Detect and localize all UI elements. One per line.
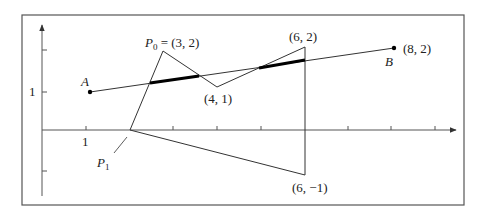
clipped-segment-1	[150, 76, 199, 83]
label-a: A	[80, 74, 89, 89]
label-b: B	[385, 54, 393, 69]
x-ticks	[86, 126, 435, 130]
clip-polygon	[130, 47, 305, 175]
label-vertex-6-2: (6, 2)	[289, 29, 317, 44]
label-vertex-4-1: (4, 1)	[204, 91, 232, 106]
point-b	[392, 46, 396, 50]
y-ticks	[42, 50, 47, 171]
label-p1: P1	[96, 155, 109, 172]
label-p0: P0 = (3, 2)	[144, 35, 199, 52]
point-a	[88, 90, 92, 94]
label-b-coord: (8, 2)	[403, 41, 431, 56]
label-vertex-6-minus1: (6, −1)	[292, 180, 328, 195]
polygon-clipping-diagram: 1 1 A B (8, 2) P0 = (3, 2) (4, 1) (6, 2)…	[0, 0, 486, 216]
figure-frame	[22, 15, 464, 205]
segment-ab	[90, 48, 394, 92]
x-tick-label-1: 1	[82, 134, 89, 149]
p1-leader	[114, 137, 127, 153]
y-tick-label-1: 1	[29, 84, 36, 99]
clipped-segment-2	[259, 60, 305, 68]
